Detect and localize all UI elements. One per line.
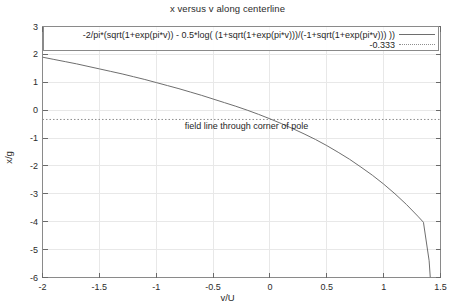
x-tick-label: 1 [381,282,386,292]
y-tick-label: -3 [14,189,38,199]
y-tick-label: 3 [14,22,38,32]
legend-label-curve: -2/pi*(sqrt(1+exp(pi*v)) - 0.5*log( (1+s… [83,29,395,41]
x-tick-label: -2 [38,282,46,292]
x-tick-label: 1.5 [434,282,447,292]
legend: -2/pi*(sqrt(1+exp(pi*v)) - 0.5*log( (1+s… [43,26,439,51]
x-axis-label: v/U [0,292,455,303]
x-tick-label: 0 [267,282,272,292]
y-tick-label: 2 [14,49,38,59]
legend-entry-constant: -0.333 [369,39,435,51]
y-tick-label: -6 [14,273,38,283]
legend-line-sample-dotted [399,44,435,46]
legend-label-constant: -0.333 [369,39,395,51]
y-axis-label: x/g [3,151,14,164]
y-tick-label: -1 [14,133,38,143]
legend-line-sample-solid [399,34,435,36]
x-tick-label: -1.5 [92,282,108,292]
y-tick-label: 1 [14,77,38,87]
plot-annotation: field line through corner of pole [185,121,309,131]
y-tick-label: -4 [14,217,38,227]
y-tick-label: -2 [14,161,38,171]
chart-figure: x versus v along centerline x/g v/U -2/p… [0,0,455,308]
y-tick-label: 0 [14,105,38,115]
y-tick-label: -5 [14,245,38,255]
x-tick-label: -0.5 [205,282,221,292]
x-tick-label: 0.5 [321,282,334,292]
x-tick-label: -1 [152,282,160,292]
